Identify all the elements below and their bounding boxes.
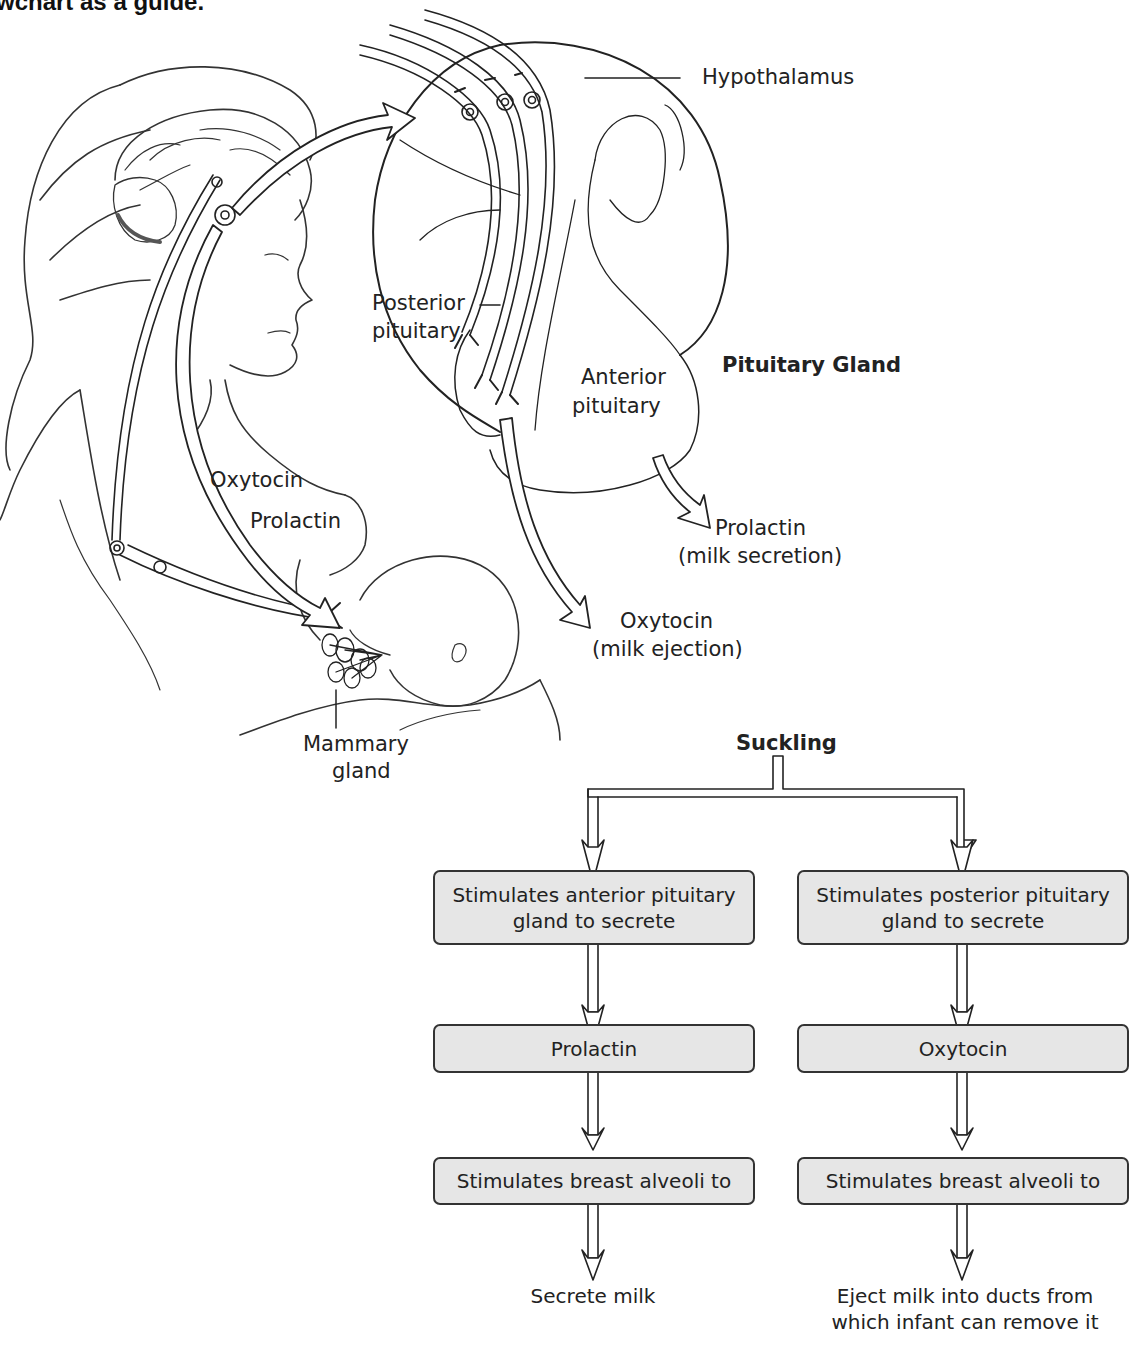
flow-right-step1: Stimulates posterior pituitary gland to … <box>797 870 1129 945</box>
flow-right-step2: Oxytocin <box>797 1024 1129 1073</box>
flow-left-step1: Stimulates anterior pituitary gland to s… <box>433 870 755 945</box>
label-posterior-pituitary-2: pituitary <box>372 318 461 344</box>
label-prolactin-output-1: Prolactin <box>715 515 806 541</box>
flow-left-step2: Prolactin <box>433 1024 755 1073</box>
flowchart-root-suckling: Suckling <box>736 730 837 756</box>
flow-left-outcome: Secrete milk <box>493 1283 693 1309</box>
label-oxytocin-output-2: (milk ejection) <box>592 636 743 662</box>
flow-right-outcome-line2: which infant can remove it <box>800 1309 1130 1335</box>
label-hypothalamus: Hypothalamus <box>702 64 854 90</box>
label-posterior-pituitary-1: Posterior <box>372 290 465 316</box>
mammary-gland-drawing <box>322 634 382 728</box>
label-prolactin-path: Prolactin <box>250 508 341 534</box>
flow-left-step1-line1: Stimulates anterior pituitary <box>452 882 735 908</box>
label-anterior-pituitary-2: pituitary <box>572 393 661 419</box>
flow-right-step3: Stimulates breast alveoli to <box>797 1157 1129 1205</box>
label-oxytocin-path: Oxytocin <box>210 467 303 493</box>
flow-left-step3: Stimulates breast alveoli to <box>433 1157 755 1205</box>
label-prolactin-output-2: (milk secretion) <box>678 543 842 569</box>
lactation-illustration <box>0 0 1141 1354</box>
label-oxytocin-output-1: Oxytocin <box>620 608 713 634</box>
label-pituitary-gland: Pituitary Gland <box>722 352 901 378</box>
label-anterior-pituitary-1: Anterior <box>581 364 666 390</box>
label-mammary-2: gland <box>332 758 391 784</box>
neuron-axons <box>110 10 554 628</box>
flow-right-outcome-line1: Eject milk into ducts from <box>800 1283 1130 1309</box>
label-mammary-1: Mammary <box>303 731 409 757</box>
flow-left-step1-line2: gland to secrete <box>513 908 676 934</box>
flow-right-step1-line1: Stimulates posterior pituitary <box>816 882 1110 908</box>
flow-right-outcome: Eject milk into ducts from which infant … <box>800 1283 1130 1335</box>
flow-right-step1-line2: gland to secrete <box>882 908 1045 934</box>
